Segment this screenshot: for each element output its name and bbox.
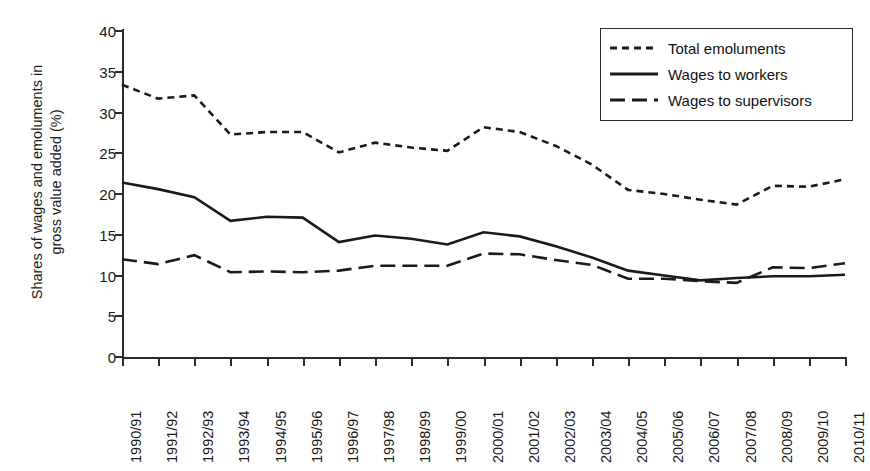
legend-item-total-emoluments: Total emoluments bbox=[609, 35, 844, 61]
y-tick-label: 30 bbox=[99, 104, 116, 121]
x-tick-mark bbox=[520, 358, 522, 366]
x-tick-mark bbox=[303, 358, 305, 366]
x-tick-label: 1995/96 bbox=[309, 411, 325, 463]
x-tick-label: 1992/93 bbox=[200, 411, 216, 463]
y-tick-label: 20 bbox=[99, 186, 116, 203]
y-tick-mark bbox=[115, 275, 122, 277]
x-tick-mark bbox=[700, 358, 702, 366]
x-axis-ticks bbox=[122, 358, 847, 367]
x-tick-label: 1991/92 bbox=[164, 411, 180, 463]
x-tick-label: 1998/99 bbox=[417, 411, 433, 463]
x-tick-mark bbox=[230, 358, 232, 366]
x-tick-label: 2002/03 bbox=[562, 411, 578, 463]
x-tick-label: 2001/02 bbox=[526, 411, 542, 463]
legend-label: Wages to workers bbox=[668, 66, 787, 83]
x-axis-tick-labels: 1990/911991/921992/931993/941994/951995/… bbox=[0, 367, 870, 471]
x-tick-mark bbox=[411, 358, 413, 366]
x-tick-mark bbox=[375, 358, 377, 366]
legend-label: Total emoluments bbox=[668, 40, 786, 57]
x-tick-mark bbox=[122, 358, 124, 366]
y-tick-label: 40 bbox=[99, 23, 116, 40]
chart-legend: Total emolumentsWages to workersWages to… bbox=[600, 28, 853, 121]
x-tick-label: 1993/94 bbox=[236, 411, 252, 463]
x-tick-mark bbox=[339, 358, 341, 366]
x-tick-label: 1999/00 bbox=[453, 411, 469, 463]
legend-swatch-icon bbox=[609, 41, 659, 55]
x-tick-label: 2008/09 bbox=[779, 411, 795, 463]
x-tick-mark bbox=[628, 358, 630, 366]
x-tick-label: 1994/95 bbox=[273, 411, 289, 463]
y-tick-mark bbox=[115, 152, 122, 154]
x-tick-label: 2000/01 bbox=[490, 411, 506, 463]
legend-swatch-icon bbox=[609, 67, 659, 81]
legend-item-wages-to-supervisors: Wages to supervisors bbox=[609, 87, 844, 113]
y-tick-mark bbox=[115, 71, 122, 73]
y-tick-label: 35 bbox=[99, 63, 116, 80]
y-tick-mark bbox=[115, 30, 122, 32]
x-tick-mark bbox=[484, 358, 486, 366]
x-tick-mark bbox=[447, 358, 449, 366]
x-tick-mark bbox=[158, 358, 160, 366]
x-tick-mark bbox=[592, 358, 594, 366]
y-tick-mark bbox=[115, 315, 122, 317]
legend-swatch-icon bbox=[609, 93, 659, 107]
y-tick-label: 25 bbox=[99, 145, 116, 162]
x-tick-label: 1990/91 bbox=[128, 411, 144, 463]
y-tick-mark bbox=[115, 356, 122, 358]
x-tick-mark bbox=[267, 358, 269, 366]
y-tick-mark bbox=[115, 193, 122, 195]
x-tick-mark bbox=[664, 358, 666, 366]
legend-label: Wages to supervisors bbox=[668, 92, 812, 109]
x-tick-label: 2004/05 bbox=[634, 411, 650, 463]
x-tick-label: 2003/04 bbox=[598, 411, 614, 463]
x-tick-label: 1997/98 bbox=[381, 411, 397, 463]
x-tick-label: 2005/06 bbox=[670, 411, 686, 463]
legend-item-wages-to-workers: Wages to workers bbox=[609, 61, 844, 87]
x-tick-label: 2007/08 bbox=[743, 411, 759, 463]
x-tick-mark bbox=[194, 358, 196, 366]
x-tick-mark bbox=[845, 358, 847, 366]
x-tick-mark bbox=[737, 358, 739, 366]
line-chart: Shares of wages and emoluments in gross … bbox=[0, 0, 870, 471]
x-tick-mark bbox=[809, 358, 811, 366]
x-tick-mark bbox=[556, 358, 558, 366]
x-tick-label: 2006/07 bbox=[706, 411, 722, 463]
y-tick-label: 15 bbox=[99, 226, 116, 243]
y-axis-title: Shares of wages and emoluments in gross … bbox=[28, 17, 66, 347]
x-tick-label: 2009/10 bbox=[815, 411, 831, 463]
x-tick-label: 1996/97 bbox=[345, 411, 361, 463]
x-tick-mark bbox=[773, 358, 775, 366]
y-axis-tick-labels: 0510152025303540 bbox=[78, 31, 116, 357]
y-tick-label: 10 bbox=[99, 267, 116, 284]
y-tick-mark bbox=[115, 112, 122, 114]
x-tick-label: 2010/11 bbox=[851, 412, 867, 463]
y-tick-mark bbox=[115, 234, 122, 236]
